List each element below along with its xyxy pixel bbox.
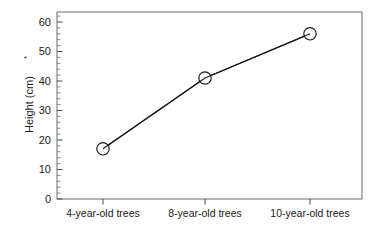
y-tick-label: 0	[45, 193, 51, 205]
plot-area-background	[57, 12, 362, 199]
y-tick-label: 10	[39, 163, 51, 175]
y-tick-label: 40	[39, 75, 51, 87]
y-tick-label: 60	[39, 16, 51, 28]
y-tick-label: 30	[39, 104, 51, 116]
y-axis-title-superscript: *	[22, 56, 31, 59]
x-category-label: 10-year-old trees	[270, 207, 349, 219]
line-chart: 60 50 40 30 20 10 0 Height (cm) * 4-year…	[0, 0, 379, 230]
x-axis-ticks	[103, 199, 310, 205]
chart-container: 60 50 40 30 20 10 0 Height (cm) * 4-year…	[0, 0, 379, 230]
y-tick-label: 50	[39, 45, 51, 57]
y-tick-label: 20	[39, 134, 51, 146]
x-category-label: 8-year-old trees	[168, 207, 242, 219]
x-category-label: 4-year-old trees	[66, 207, 140, 219]
y-axis-title-group: Height (cm) *	[22, 56, 35, 133]
x-axis-tick-labels: 4-year-old trees 8-year-old trees 10-yea…	[66, 207, 349, 219]
y-axis-title: Height (cm)	[23, 76, 35, 133]
y-axis-tick-labels: 60 50 40 30 20 10 0	[39, 16, 51, 205]
